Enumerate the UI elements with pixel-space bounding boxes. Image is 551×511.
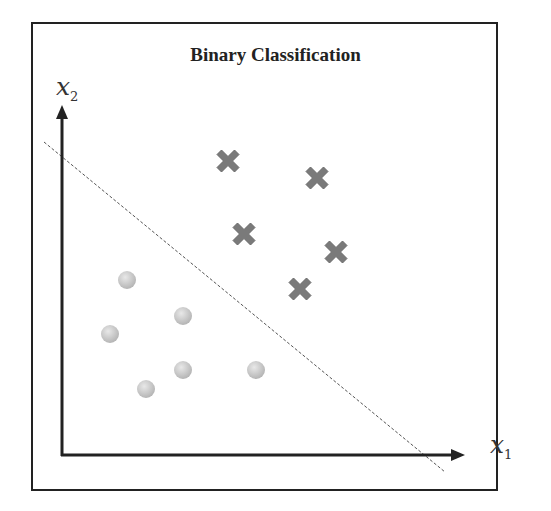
cross-marker-icon — [289, 278, 311, 300]
cross-markers — [217, 150, 347, 300]
y-axis-label: x2 — [56, 72, 78, 104]
y-axis-arrow-icon — [56, 105, 68, 119]
cross-marker-icon — [233, 223, 255, 245]
circle-marker-icon — [137, 380, 155, 398]
circle-marker-icon — [118, 271, 136, 289]
x-axis-label: x1 — [490, 430, 512, 462]
circle-marker-icon — [101, 325, 119, 343]
circle-marker-icon — [174, 361, 192, 379]
x-axis-arrow-icon — [451, 449, 465, 461]
cross-marker-icon — [306, 167, 328, 189]
circle-marker-icon — [174, 307, 192, 325]
circle-marker-icon — [247, 361, 265, 379]
cross-marker-icon — [325, 241, 347, 263]
cross-marker-icon — [217, 150, 239, 172]
circle-markers — [101, 271, 265, 398]
plot-area — [0, 0, 551, 511]
decision-boundary-line — [44, 142, 445, 472]
